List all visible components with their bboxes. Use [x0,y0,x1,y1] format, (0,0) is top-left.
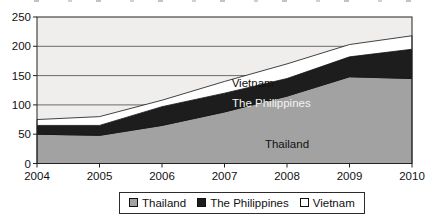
series-label-vietnam: Vietnam [232,77,274,89]
y-tick-label-50: 50 [18,128,31,140]
y-tick-label-250: 250 [12,11,31,23]
legend-label-thailand: Thailand [142,197,186,209]
y-tick-label-200: 200 [12,40,31,52]
legend-label-vietnam: Vietnam [313,197,355,209]
legend-label-philippines: The Philippines [210,197,289,209]
y-tick-label-0: 0 [25,158,31,170]
x-tick-label-2004: 2004 [24,170,50,182]
x-tick-label-2007: 2007 [212,170,238,182]
series-label-thailand: Thailand [265,138,309,150]
x-tick-label-2009: 2009 [337,170,363,182]
vietnam-swatch-icon [300,198,309,207]
legend-item-thailand: Thailand [129,197,186,209]
stacked-area-chart: 0501001502002502004200520062007200820092… [0,0,436,190]
series-label-the-philippines: The Philippines [232,97,311,109]
x-tick-label-2010: 2010 [399,170,425,182]
legend-item-vietnam: Vietnam [300,197,355,209]
legend-item-philippines: The Philippines [197,197,289,209]
chart-figure: 0501001502002502004200520062007200820092… [0,0,436,222]
y-tick-label-150: 150 [12,70,31,82]
x-tick-label-2008: 2008 [274,170,300,182]
x-tick-label-2006: 2006 [149,170,175,182]
thailand-swatch-icon [129,198,138,207]
y-tick-label-100: 100 [12,99,31,111]
legend: Thailand The Philippines Vietnam [119,192,365,214]
x-tick-label-2005: 2005 [87,170,113,182]
philippines-swatch-icon [197,198,206,207]
